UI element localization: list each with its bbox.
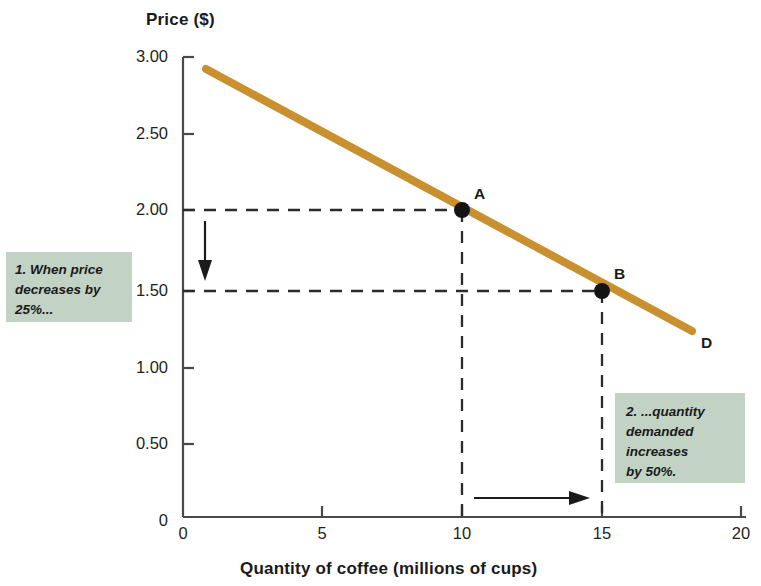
callout-quantity-increase: 2. ...quantity demanded increases by 50%…: [615, 393, 745, 483]
y-tick-label-2-50: 2.50: [108, 124, 168, 143]
y-tick-label-0-50: 0.50: [108, 434, 168, 453]
y-tick-label-2-00: 2.00: [108, 200, 168, 219]
x-tick-label-20: 20: [721, 524, 761, 543]
y-tick-label-1-00: 1.00: [108, 358, 168, 377]
point-label-b: B: [614, 265, 625, 283]
callout-2-line-2: demanded: [626, 422, 736, 442]
x-axis-title: Quantity of coffee (millions of cups): [240, 559, 537, 579]
x-axis-ticks: [322, 506, 741, 517]
callout-1-line-2: decreases by: [15, 280, 123, 300]
data-point-a: [454, 202, 470, 218]
y-tick-label-0: 0: [108, 511, 168, 530]
data-point-b: [594, 283, 610, 299]
curve-label-d: D: [701, 334, 712, 352]
price-decrease-arrow: [198, 221, 212, 281]
callout-2-line-1: 2. ...quantity: [626, 402, 736, 422]
quantity-increase-arrow-head: [569, 491, 590, 505]
price-decrease-arrow-head: [198, 260, 212, 281]
chart-page: Price ($) Quantity of coffee (millions o…: [0, 0, 761, 586]
y-axis-title: Price ($): [146, 10, 215, 30]
x-tick-label-15: 15: [582, 524, 622, 543]
callout-2-line-4: by 50%.: [626, 462, 736, 482]
quantity-increase-arrow: [474, 491, 590, 505]
callout-1-line-1: 1. When price: [15, 260, 123, 280]
x-tick-label-10: 10: [442, 524, 482, 543]
callout-1-line-3: 25%...: [15, 300, 123, 320]
x-tick-label-0: 0: [163, 524, 203, 543]
x-tick-label-5: 5: [302, 524, 342, 543]
y-tick-label-3-00: 3.00: [108, 47, 168, 66]
y-axis-ticks: [183, 57, 194, 444]
callout-price-decrease: 1. When price decreases by 25%...: [6, 252, 132, 322]
point-label-a: A: [474, 185, 485, 203]
callout-2-line-3: increases: [626, 442, 736, 462]
